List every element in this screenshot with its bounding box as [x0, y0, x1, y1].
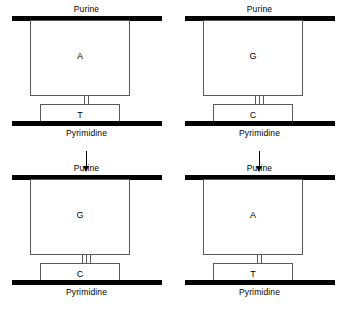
flow-arrow-left	[81, 151, 92, 173]
base-pair-diagram: Purine A T Pyrimidine Purine G C	[0, 0, 346, 317]
arrow-head-down-icon	[256, 166, 262, 172]
arrow-head-down-icon	[83, 166, 89, 172]
base-pair-unit-top-right: Purine G C Pyrimidine	[173, 0, 346, 158]
backbone-pyrimidine-strand	[185, 280, 335, 285]
strand-label-pyrimidine-bottom: Pyrimidine	[0, 287, 173, 298]
backbone-pyrimidine-strand	[185, 121, 335, 126]
purine-base-letter: A	[204, 210, 302, 220]
pyrimidine-base-letter: C	[214, 110, 292, 120]
backbone-pyrimidine-strand	[12, 121, 162, 126]
base-pair-unit-bottom-right: Purine A T Pyrimidine	[173, 159, 346, 317]
pyrimidine-base-letter: C	[41, 269, 119, 279]
purine-base-box: G	[30, 179, 130, 255]
strand-label-purine-top: Purine	[0, 4, 173, 15]
purine-base-letter: G	[204, 51, 302, 61]
base-pair-unit-top-left: Purine A T Pyrimidine	[0, 0, 173, 158]
pyrimidine-base-letter: T	[41, 110, 119, 120]
pyrimidine-base-letter: T	[214, 269, 292, 279]
strand-label-purine-top: Purine	[173, 4, 346, 15]
purine-base-box: A	[203, 179, 303, 255]
strand-label-pyrimidine-bottom: Pyrimidine	[0, 128, 173, 139]
backbone-pyrimidine-strand	[12, 280, 162, 285]
base-pair-unit-bottom-left: Purine G C Pyrimidine	[0, 159, 173, 317]
purine-base-letter: G	[31, 210, 129, 220]
strand-label-pyrimidine-bottom: Pyrimidine	[173, 128, 346, 139]
strand-label-pyrimidine-bottom: Pyrimidine	[173, 287, 346, 298]
purine-base-letter: A	[31, 51, 129, 61]
purine-base-box: A	[30, 20, 130, 96]
flow-arrow-right	[254, 151, 265, 173]
purine-base-box: G	[203, 20, 303, 96]
